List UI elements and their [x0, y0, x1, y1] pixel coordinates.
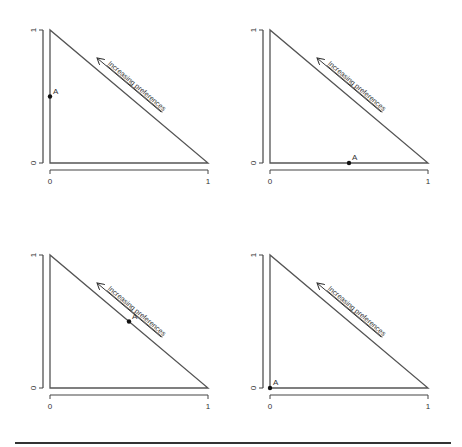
point-label: A: [53, 87, 59, 96]
y-tick-label: 1: [29, 252, 38, 257]
point-label: A: [132, 312, 138, 321]
y-axis: 01: [249, 252, 264, 390]
x-tick-label: 0: [268, 177, 273, 186]
x-axis: 01: [48, 395, 211, 411]
point-marker: [268, 386, 272, 390]
point-marker: [127, 319, 131, 323]
x-tick-label: 0: [48, 402, 53, 411]
x-tick-label: 1: [426, 402, 431, 411]
x-axis: 01: [268, 170, 431, 186]
point-label: A: [352, 153, 358, 162]
x-tick-label: 1: [206, 402, 211, 411]
y-tick-label: 1: [249, 252, 258, 257]
preference-annotation: Increasing preferences: [97, 51, 168, 113]
x-tick-label: 0: [48, 177, 53, 186]
preference-annotation: Increasing preferences: [317, 276, 388, 338]
y-axis: 01: [249, 27, 264, 165]
x-tick-label: 1: [426, 177, 431, 186]
feasible-triangle: [50, 30, 208, 163]
y-tick-label: 0: [29, 385, 38, 390]
feasible-triangle: [270, 30, 428, 163]
panel-2: 0101Increasing preferencesA: [249, 27, 431, 186]
y-tick-label: 0: [249, 385, 258, 390]
y-tick-label: 1: [29, 27, 38, 32]
bottom-rule: [15, 442, 451, 444]
y-axis: 01: [29, 27, 44, 165]
feasible-triangle: [270, 255, 428, 388]
x-axis: 01: [268, 395, 431, 411]
panel-3: 0101Increasing preferencesA: [29, 252, 211, 411]
preference-annotation: Increasing preferences: [317, 51, 388, 113]
x-tick-label: 1: [206, 177, 211, 186]
point-marker: [347, 161, 351, 165]
y-tick-label: 1: [249, 27, 258, 32]
figure: 0101Increasing preferencesA0101Increasin…: [0, 0, 462, 447]
x-axis: 01: [48, 170, 211, 186]
y-tick-label: 0: [249, 160, 258, 165]
point-marker: [48, 94, 52, 98]
panel-4: 0101Increasing preferencesA: [249, 252, 431, 411]
point-label: A: [273, 378, 279, 387]
x-tick-label: 0: [268, 402, 273, 411]
preference-annotation: Increasing preferences: [97, 276, 168, 338]
y-tick-label: 0: [29, 160, 38, 165]
y-axis: 01: [29, 252, 44, 390]
panel-1: 0101Increasing preferencesA: [29, 27, 211, 186]
